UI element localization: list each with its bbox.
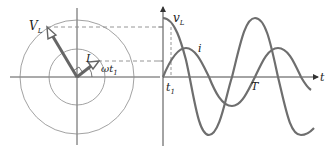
phasor-diagram: VL I ωt1 xyxy=(10,8,163,145)
time-axis-label: t xyxy=(320,71,325,84)
voltage-curve xyxy=(163,18,314,135)
angle-arc xyxy=(89,68,92,77)
period-label: T xyxy=(251,80,260,93)
angle-label: ωt1 xyxy=(101,63,118,77)
t1-label: t1 xyxy=(166,81,175,96)
voltage-curve-label: vL xyxy=(173,11,185,27)
waveform-plot: vL i t t1 T xyxy=(158,7,325,146)
current-phasor-label: I xyxy=(85,52,91,65)
inductor-phasor-figure: VL I ωt1 vL i t t1 T xyxy=(0,0,325,154)
voltage-phasor-arrow xyxy=(47,27,77,77)
voltage-phasor-label: VL xyxy=(29,19,43,35)
current-curve-label: i xyxy=(198,42,202,55)
